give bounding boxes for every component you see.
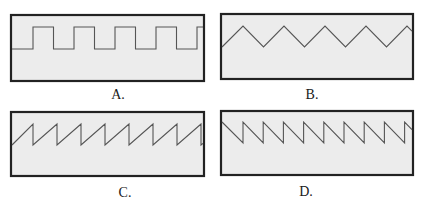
panel-a [11, 15, 204, 81]
panel-c [11, 112, 204, 176]
panel-b [221, 14, 413, 79]
waveform-figure: A. B. C. D. [0, 0, 424, 207]
waveform-figure-svg [0, 0, 424, 207]
panel-c-label: C. [119, 186, 132, 200]
panel-d-label: D. [299, 185, 313, 199]
panel-a-label: A. [111, 88, 125, 102]
panel-b-label: B. [306, 88, 319, 102]
panel-a-frame [11, 15, 204, 81]
panel-c-frame [11, 112, 204, 176]
panel-d [221, 111, 413, 175]
panel-b-frame [221, 14, 413, 79]
